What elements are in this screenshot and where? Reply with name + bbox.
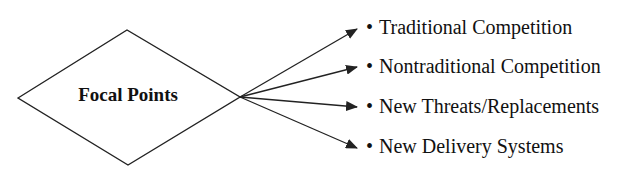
list-item-new-threats: •New Threats/Replacements (366, 95, 599, 118)
bullet-icon: • (366, 55, 373, 77)
list-item-new-delivery-systems: •New Delivery Systems (366, 135, 563, 158)
focal-points-label: Focal Points (40, 84, 216, 106)
arrow-traditional-competition (240, 29, 357, 97)
bullet-icon: • (366, 95, 373, 117)
item-label: Traditional Competition (379, 16, 572, 38)
arrow-nontraditional-competition (240, 67, 357, 97)
item-label: Nontraditional Competition (379, 55, 601, 77)
list-item-nontraditional-competition: •Nontraditional Competition (366, 55, 601, 78)
bullet-icon: • (366, 135, 373, 157)
arrow-new-threats (240, 97, 357, 107)
list-item-traditional-competition: •Traditional Competition (366, 16, 572, 39)
arrow-new-delivery-systems (240, 97, 357, 148)
item-label: New Threats/Replacements (379, 95, 599, 117)
item-label: New Delivery Systems (379, 135, 563, 157)
bullet-icon: • (366, 16, 373, 38)
